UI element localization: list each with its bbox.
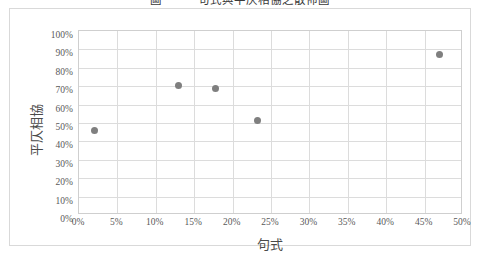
x-axis-tick-labels: 0%5%10%15%20%25%30%35%40%45%50% <box>78 216 462 230</box>
gridline-vertical <box>425 31 426 213</box>
x-axis-tick-label: 30% <box>288 216 328 228</box>
x-axis-tick-label: 0% <box>58 216 98 228</box>
gridline-horizontal <box>79 178 461 179</box>
gridline-horizontal <box>79 123 461 124</box>
gridline-horizontal <box>79 160 461 161</box>
gridline-horizontal <box>79 197 461 198</box>
x-axis-tick-label: 50% <box>442 216 480 228</box>
gridline-vertical <box>309 31 310 213</box>
y-axis-tick-label: 20% <box>40 177 73 187</box>
y-axis-tick-label: 10% <box>40 196 73 206</box>
x-axis-tick-label: 35% <box>327 216 367 228</box>
gridline-vertical <box>233 31 234 213</box>
gridline-vertical <box>386 31 387 213</box>
x-axis-tick-label: 40% <box>365 216 405 228</box>
y-axis-tick-label: 80% <box>40 67 73 77</box>
gridline-vertical <box>194 31 195 213</box>
x-axis-tick-label: 45% <box>404 216 444 228</box>
gridline-vertical <box>348 31 349 213</box>
data-point <box>212 85 219 92</box>
gridline-horizontal <box>79 86 461 87</box>
x-axis-title: 句式 <box>78 234 462 253</box>
gridline-vertical <box>156 31 157 213</box>
y-axis-tick-label: 90% <box>40 48 73 58</box>
x-axis-tick-label: 10% <box>135 216 175 228</box>
gridline-horizontal <box>79 68 461 69</box>
x-axis-tick-label: 25% <box>250 216 290 228</box>
gridline-vertical <box>271 31 272 213</box>
x-axis-tick-label: 5% <box>96 216 136 228</box>
plot-area <box>78 30 462 214</box>
y-axis-tick-labels: 0%10%20%30%40%50%60%70%80%90%100% <box>40 23 73 221</box>
chart-frame: 平仄相協 0%10%20%30%40%50%60%70%80%90%100% 0… <box>9 8 471 246</box>
data-point <box>91 127 98 134</box>
data-point <box>254 117 261 124</box>
gridline-horizontal <box>79 105 461 106</box>
y-axis-tick-label: 50% <box>40 122 73 132</box>
gridline-horizontal <box>79 49 461 50</box>
x-axis-tick-label: 15% <box>173 216 213 228</box>
figure-title: 圖一 句式與平仄相協之散佈圖 <box>0 0 480 5</box>
y-axis-tick-label: 100% <box>40 30 73 40</box>
gridline-vertical <box>117 31 118 213</box>
y-axis-tick-label: 70% <box>40 85 73 95</box>
y-axis-tick-label: 40% <box>40 140 73 150</box>
x-axis-tick-label: 20% <box>212 216 252 228</box>
y-axis-tick-label: 60% <box>40 104 73 114</box>
data-point <box>436 51 443 58</box>
data-point <box>175 82 182 89</box>
gridline-horizontal <box>79 141 461 142</box>
y-axis-tick-label: 30% <box>40 159 73 169</box>
